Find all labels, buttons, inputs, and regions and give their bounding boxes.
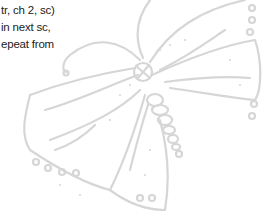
butterfly-illustration-icon: [0, 0, 263, 211]
